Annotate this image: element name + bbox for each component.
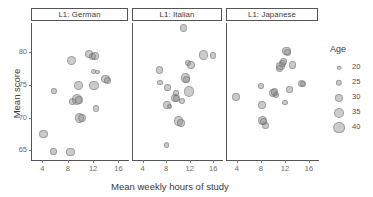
x-tick-mark xyxy=(42,160,43,163)
data-point xyxy=(104,77,111,84)
data-point xyxy=(177,119,185,127)
legend-key-bubble xyxy=(330,75,348,90)
x-axis-line xyxy=(132,160,222,161)
x-tick-label: 12 xyxy=(183,164,197,173)
legend-bubble xyxy=(335,93,343,101)
data-point xyxy=(39,130,48,139)
data-point xyxy=(51,88,57,94)
legend-entry: 40 xyxy=(330,120,373,135)
x-tick-label: 16 xyxy=(206,164,220,173)
x-axis-line xyxy=(31,160,128,161)
facet-strip-label: L1: German xyxy=(31,8,128,21)
data-point xyxy=(157,80,163,86)
data-point xyxy=(280,58,288,66)
data-point xyxy=(284,49,291,56)
legend-label: 30 xyxy=(352,92,360,101)
legend-entry: 35 xyxy=(330,105,373,120)
data-point xyxy=(258,83,264,89)
legend-title: Age xyxy=(330,44,373,54)
x-tick-mark xyxy=(190,160,191,163)
facet-strip-label: L1: Italian xyxy=(132,8,222,21)
data-point xyxy=(232,93,240,101)
facet-panel xyxy=(132,23,223,161)
x-tick-label: 16 xyxy=(111,164,125,173)
data-point xyxy=(66,148,75,157)
y-tick-label: 65 xyxy=(5,145,27,154)
data-point xyxy=(156,66,163,73)
legend-entry: 25 xyxy=(330,75,373,90)
legend-entry: 20 xyxy=(330,60,373,75)
data-point xyxy=(262,122,269,129)
x-tick-mark xyxy=(309,160,310,163)
data-point xyxy=(210,52,217,59)
data-point xyxy=(282,100,288,106)
data-point xyxy=(184,86,194,96)
data-point xyxy=(273,92,279,98)
facet-panel xyxy=(31,23,129,161)
x-tick-mark xyxy=(213,160,214,163)
data-point xyxy=(199,50,208,59)
scatter-plot-figure: Mean score Mean weekly hours of study 65… xyxy=(0,0,373,197)
data-point xyxy=(187,61,195,69)
data-point xyxy=(78,114,86,122)
x-tick-label: 8 xyxy=(254,164,268,173)
x-tick-label: 4 xyxy=(35,164,49,173)
legend-bubble xyxy=(334,107,344,117)
legend-entries: 2025303540 xyxy=(330,60,373,135)
data-point xyxy=(289,61,297,69)
x-tick-mark xyxy=(285,160,286,163)
data-point xyxy=(91,52,99,60)
x-tick-mark xyxy=(237,160,238,163)
x-tick-mark xyxy=(93,160,94,163)
x-tick-mark xyxy=(143,160,144,163)
facet-panel xyxy=(226,23,319,161)
x-tick-label: 8 xyxy=(61,164,75,173)
data-point xyxy=(180,24,187,31)
legend-bubble xyxy=(333,122,345,134)
x-tick-label: 12 xyxy=(86,164,100,173)
x-axis-title: Mean weekly hours of study xyxy=(0,181,340,192)
y-tick-label: 75 xyxy=(5,80,27,89)
x-tick-label: 8 xyxy=(159,164,173,173)
y-tick-label: 70 xyxy=(5,113,27,122)
x-tick-mark xyxy=(68,160,69,163)
x-tick-label: 16 xyxy=(302,164,316,173)
legend-key-bubble xyxy=(330,120,348,135)
data-point xyxy=(93,105,99,111)
legend-label: 35 xyxy=(352,107,360,116)
data-point xyxy=(286,86,292,92)
facet-strip-label: L1: Japanese xyxy=(226,8,318,21)
y-tick-label: 80 xyxy=(5,47,27,56)
legend-bubble xyxy=(337,65,342,70)
x-tick-label: 12 xyxy=(278,164,292,173)
data-point xyxy=(75,96,83,104)
x-tick-label: 4 xyxy=(136,164,150,173)
legend-label: 40 xyxy=(352,122,360,131)
legend-label: 20 xyxy=(352,62,360,71)
x-axis-line xyxy=(226,160,318,161)
size-legend: Age 2025303540 xyxy=(330,44,373,135)
data-point xyxy=(50,148,57,155)
x-tick-mark xyxy=(118,160,119,163)
x-tick-mark xyxy=(166,160,167,163)
legend-key-bubble xyxy=(330,105,348,120)
data-point xyxy=(183,76,190,83)
legend-label: 25 xyxy=(352,77,360,86)
data-point xyxy=(164,84,171,91)
legend-key-bubble xyxy=(330,90,348,105)
x-tick-mark xyxy=(261,160,262,163)
data-point xyxy=(300,81,306,87)
data-point xyxy=(89,81,99,91)
data-point xyxy=(258,101,266,109)
data-point xyxy=(67,56,76,65)
data-point xyxy=(74,81,83,90)
legend-bubble xyxy=(336,79,342,85)
x-tick-label: 4 xyxy=(230,164,244,173)
data-point xyxy=(164,142,170,148)
data-point xyxy=(179,98,185,104)
data-point xyxy=(95,70,100,75)
legend-entry: 30 xyxy=(330,90,373,105)
legend-key-bubble xyxy=(330,60,348,75)
data-point xyxy=(167,104,172,109)
